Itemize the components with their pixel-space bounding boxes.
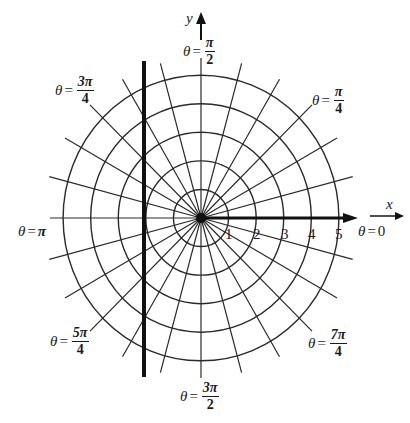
x-axis-label: x [386, 196, 393, 213]
radial-line-330deg [201, 218, 337, 298]
y-axis-arrowhead-icon [196, 12, 206, 24]
label-theta-pi-over-4: θ = π4 [312, 85, 344, 116]
tick-2: 2 [253, 226, 261, 243]
tick-5: 5 [335, 226, 343, 243]
x-axis-arrowhead-icon [343, 213, 358, 223]
label-theta-pi: θ = π [18, 224, 46, 239]
label-theta-3pi-over-4: θ = 3π4 [55, 75, 94, 106]
radial-line-300deg [201, 218, 280, 357]
origin-dot [196, 213, 206, 223]
label-theta-zero: θ = 0 [358, 224, 385, 239]
radial-line-150deg [65, 138, 201, 218]
label-theta-5pi-over-4: θ = 5π4 [50, 326, 89, 357]
tick-3: 3 [281, 226, 289, 243]
label-theta-3pi-over-2: θ = 3π2 [180, 381, 219, 412]
label-theta-pi-over-2: θ = π2 [183, 36, 215, 67]
x-direction-arrowhead-icon [395, 212, 404, 220]
radial-line-60deg [201, 79, 280, 218]
y-axis-label: y [186, 10, 193, 27]
radial-line-210deg [65, 218, 201, 298]
tick-1: 1 [225, 226, 233, 243]
radial-line-240deg [123, 218, 202, 357]
tick-4: 4 [308, 226, 316, 243]
radial-line-120deg [123, 79, 202, 218]
radial-line-45deg [201, 105, 312, 218]
radial-line-30deg [201, 138, 337, 218]
label-theta-7pi-over-4: θ = 7π4 [308, 328, 347, 359]
